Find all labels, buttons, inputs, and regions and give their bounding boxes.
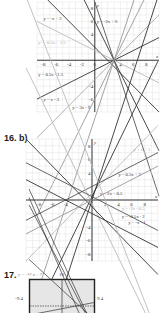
x-tick-label: -2 — [80, 62, 85, 67]
y-tick-label: 4 — [88, 171, 91, 176]
x-tick-label: 8 — [145, 62, 148, 67]
y-tick-label: 4 — [91, 32, 94, 37]
series-label: y = x + 1 — [134, 147, 151, 152]
graph-16b: xy-8-6-42468864-4-6-8y = x + 1y = 0.5x +… — [26, 139, 158, 261]
problem-17-equation: y = -½ x - 7 — [18, 272, 42, 277]
y-axis-label: y — [93, 140, 97, 145]
graph-16b-svg: xy-8-6-42468864-4-6-8y = x + 1y = 0.5x +… — [26, 139, 158, 261]
graph-17-calculator — [29, 279, 95, 313]
graph-17-svg — [29, 279, 95, 313]
series-label: y = 0.5x + 2 — [118, 172, 141, 177]
y-tick-label: 8 — [91, 6, 94, 11]
x-tick-label: 4 — [117, 202, 120, 207]
y-tick-label: -6 — [86, 238, 91, 243]
calc-ymax-label: 10 — [59, 272, 64, 277]
series-label: y = x - 3 — [43, 97, 59, 102]
series-line — [37, 38, 159, 99]
problem-label-16b: 16. b) — [4, 133, 28, 143]
calc-xmax-label: 9.4 — [97, 296, 103, 301]
x-tick-label: -6 — [54, 62, 59, 67]
x-axis-label: x — [155, 54, 159, 59]
x-tick-label: 0 — [94, 62, 97, 67]
series-label: y = 3x - 9 — [72, 105, 91, 110]
y-tick-label: -4 — [86, 225, 91, 230]
x-tick-label: 6 — [132, 62, 135, 67]
x-tick-label: -8 — [37, 202, 42, 207]
series-label: y = -0.5x + 1.5 — [38, 40, 66, 45]
series-label: y = -2x - 0.5 — [122, 206, 146, 211]
graph-16a-svg: xy-8-6-4-20468864-4-6y = -x + 2y = -2x +… — [37, 2, 159, 112]
series-label: y = -2x + 6 — [97, 19, 118, 24]
y-tick-label: -8 — [86, 252, 91, 257]
problem-label-17: 17. — [4, 270, 17, 280]
graph-16a: xy-8-6-4-20468864-4-6y = -x + 2y = -2x +… — [37, 2, 159, 112]
series-label: y = -x + 2 — [43, 16, 62, 21]
x-tick-label: -8 — [41, 62, 46, 67]
calc-xmin-label: -9.4 — [15, 296, 23, 301]
y-tick-label: 8 — [88, 144, 91, 149]
y-tick-label: 6 — [91, 19, 94, 24]
x-tick-label: -4 — [67, 62, 72, 67]
y-tick-label: -6 — [89, 97, 94, 102]
x-tick-label: -4 — [64, 202, 69, 207]
series-label: y = 0.5x - 1.5 — [38, 72, 63, 77]
x-axis-label: x — [154, 194, 158, 199]
